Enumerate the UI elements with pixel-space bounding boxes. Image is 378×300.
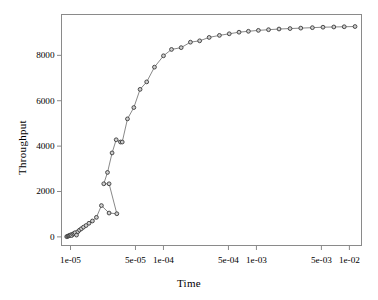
x-tick-label: 1e-05 (60, 255, 81, 265)
data-point (132, 106, 136, 110)
y-tick-label: 4000 (36, 141, 54, 151)
x-axis-title: Time (0, 277, 378, 289)
data-point (107, 182, 111, 186)
data-point (102, 182, 106, 186)
data-markers (65, 25, 357, 239)
x-tick-label: 5e-04 (218, 255, 239, 265)
x-tick-label: 1e-04 (153, 255, 174, 265)
y-tick-label: 6000 (36, 96, 54, 106)
data-point (145, 80, 149, 84)
data-point (91, 219, 95, 223)
y-tick-label: 2000 (36, 186, 54, 196)
data-point (110, 151, 114, 155)
data-point (257, 28, 261, 32)
data-point (321, 25, 325, 29)
data-point (100, 204, 104, 208)
data-point (198, 39, 202, 43)
y-axis-ticks (57, 55, 62, 237)
y-tick-label: 8000 (36, 50, 54, 60)
y-tick-label: 0 (50, 232, 55, 242)
data-point (277, 27, 281, 31)
data-point (332, 25, 336, 29)
data-point (207, 36, 211, 40)
data-point (218, 33, 222, 37)
data-point (115, 212, 119, 216)
data-point (120, 140, 124, 144)
data-point (342, 25, 346, 29)
data-point (310, 26, 314, 30)
x-axis-ticks (71, 246, 350, 251)
data-point (170, 48, 174, 52)
x-tick-label: 1e-02 (339, 255, 360, 265)
data-point (138, 87, 142, 91)
data-point (107, 211, 111, 215)
data-point (162, 54, 166, 58)
y-axis-title: Throughput (16, 120, 28, 175)
data-point (237, 30, 241, 34)
data-point (247, 29, 251, 33)
data-point (114, 138, 118, 142)
data-point (95, 215, 99, 219)
data-point (153, 65, 157, 69)
x-tick-label: 5e-05 (125, 255, 146, 265)
data-point (106, 171, 110, 175)
x-tick-label: 5e-03 (311, 255, 332, 265)
data-point (126, 117, 130, 121)
data-point (288, 27, 292, 31)
data-point (353, 25, 357, 29)
data-point (299, 26, 303, 30)
data-point (267, 28, 271, 32)
data-line (67, 27, 355, 237)
chart-figure: Time Throughput 1e-055e-051e-045e-041e-0… (0, 0, 378, 300)
data-point (179, 46, 183, 50)
data-point (227, 32, 231, 36)
x-tick-label: 1e-03 (246, 255, 267, 265)
data-point (189, 40, 193, 44)
